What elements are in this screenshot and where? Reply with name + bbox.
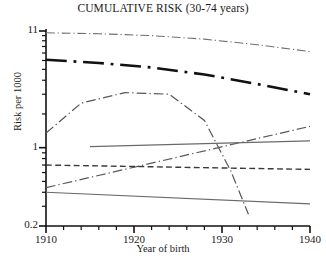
plot-area [0, 0, 326, 263]
x-tick-label: 1920 [109, 233, 159, 245]
x-tick-label: 1930 [197, 233, 247, 245]
x-tick-label: 1940 [285, 233, 326, 245]
series-line-0[interactable] [46, 33, 310, 52]
y-tick-label: 1 [0, 140, 38, 152]
x-tick-label: 1910 [21, 233, 71, 245]
series-line-3[interactable] [46, 126, 310, 187]
series-line-1[interactable] [46, 60, 310, 95]
series-line-6[interactable] [46, 192, 310, 204]
series-line-4[interactable] [90, 141, 310, 147]
y-tick-label: 0.2 [0, 218, 38, 230]
series-line-2[interactable] [46, 93, 248, 215]
chart-container: CUMULATIVE RISK (30-74 years) Risk per 1… [0, 0, 326, 263]
series-line-5[interactable] [46, 165, 310, 169]
y-tick-label: 11 [0, 23, 38, 35]
